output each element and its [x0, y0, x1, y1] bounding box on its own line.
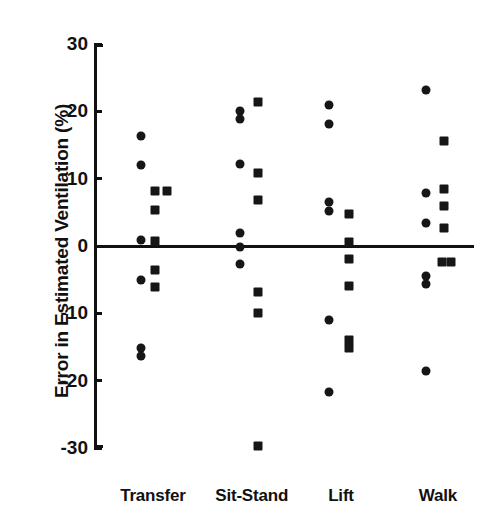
y-tick-label: -30	[61, 437, 88, 459]
y-tick-neg10	[94, 312, 102, 315]
y-tick-30	[94, 43, 102, 46]
y-tick-neg30	[94, 447, 102, 450]
data-point-circle	[236, 228, 245, 237]
data-point-circle	[137, 235, 146, 244]
data-point-square	[151, 187, 160, 196]
data-point-square	[151, 283, 160, 292]
data-point-square	[151, 205, 160, 214]
data-point-square	[344, 209, 353, 218]
data-point-circle	[422, 219, 431, 228]
y-tick-label: -10	[61, 302, 88, 324]
y-tick-label: 10	[67, 168, 88, 190]
data-point-square	[151, 237, 160, 246]
plot-area: 3020100-10-20-30	[94, 44, 474, 448]
y-tick-label: -20	[61, 370, 88, 392]
data-point-circle	[325, 316, 334, 325]
data-point-square	[440, 136, 449, 145]
data-point-square	[446, 258, 455, 267]
data-point-circle	[422, 367, 431, 376]
data-point-circle	[236, 243, 245, 252]
data-point-square	[254, 288, 263, 297]
data-point-circle	[325, 120, 334, 129]
data-point-circle	[422, 85, 431, 94]
data-point-circle	[137, 275, 146, 284]
data-point-square	[440, 184, 449, 193]
data-point-square	[440, 201, 449, 210]
y-tick-label: 0	[77, 235, 88, 257]
data-point-circle	[236, 260, 245, 269]
x-axis-label-lift: Lift	[328, 486, 354, 506]
data-point-circle	[137, 131, 146, 140]
data-point-square	[254, 308, 263, 317]
data-point-square	[440, 224, 449, 233]
data-point-circle	[325, 197, 334, 206]
data-point-circle	[325, 100, 334, 109]
y-tick-10	[94, 177, 102, 180]
data-point-square	[344, 281, 353, 290]
data-point-circle	[422, 279, 431, 288]
data-point-circle	[236, 114, 245, 123]
scatter-chart-figure: Error in Estimated Ventilation (%) 30201…	[0, 0, 485, 519]
x-axis-category-labels: TransferSit-StandLiftWalk	[94, 486, 474, 510]
y-tick-20	[94, 110, 102, 113]
data-point-square	[344, 237, 353, 246]
y-tick-neg20	[94, 379, 102, 382]
x-axis-label-walk: Walk	[419, 486, 457, 506]
y-tick-label: 30	[67, 33, 88, 55]
data-point-circle	[236, 159, 245, 168]
data-point-square	[163, 187, 172, 196]
data-point-square	[344, 343, 353, 352]
y-tick-label: 20	[67, 100, 88, 122]
data-point-circle	[137, 351, 146, 360]
data-point-square	[151, 266, 160, 275]
data-point-circle	[325, 388, 334, 397]
data-point-square	[254, 441, 263, 450]
data-point-circle	[325, 206, 334, 215]
x-axis-label-sit-stand: Sit-Stand	[215, 486, 288, 506]
data-point-square	[344, 254, 353, 263]
data-point-circle	[422, 189, 431, 198]
data-point-square	[254, 97, 263, 106]
data-point-square	[254, 169, 263, 178]
data-point-square	[254, 196, 263, 205]
data-point-square	[437, 258, 446, 267]
data-point-circle	[137, 161, 146, 170]
x-axis-label-transfer: Transfer	[120, 486, 186, 506]
